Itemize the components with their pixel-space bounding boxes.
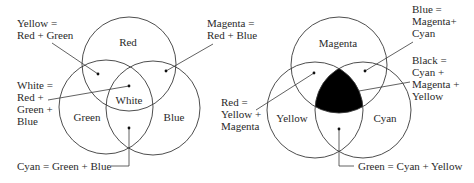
annotation-white-line1: White = — [17, 79, 53, 91]
annotation-black-line1: Black = — [412, 54, 447, 66]
leader-line-yellow — [52, 43, 98, 74]
subtractive-diagram: Magenta Yellow Cyan Blue = Magenta+ Cyan… — [221, 3, 462, 172]
annotation-cyan: Cyan = Green + Blue — [17, 160, 111, 172]
annotation-red-line1: Red = — [221, 96, 248, 108]
leader-line-red — [256, 73, 314, 110]
annotation-magenta-line1: Magenta = — [207, 17, 254, 29]
annotation-white-line2: Red + — [17, 91, 44, 103]
annotation-green: Green = Cyan + Yellow — [358, 160, 462, 172]
leader-line-black — [359, 82, 410, 91]
annotation-white-line4: Blue — [17, 115, 38, 127]
annotation-black-line3: Magenta + — [412, 78, 459, 90]
region-label-red: Red — [119, 36, 137, 48]
marker-dot-blue — [364, 70, 367, 73]
marker-dot-cyan — [128, 127, 131, 130]
marker-dot-white — [128, 85, 131, 88]
marker-dot-magenta — [165, 70, 168, 73]
annotation-magenta-line2: Red + Blue — [207, 29, 257, 41]
annotation-black-line4: Yellow — [412, 90, 443, 102]
annotation-black-line2: Cyan + — [412, 66, 444, 78]
region-label-blue: Blue — [164, 111, 185, 123]
annotation-red-line3: Magenta — [221, 120, 260, 132]
annotation-blue-line3: Cyan — [412, 27, 436, 39]
leader-line-blue — [365, 42, 413, 71]
marker-dot-red — [313, 72, 316, 75]
annotation-yellow-line2: Red + Green — [17, 29, 74, 41]
region-label-cyan: Cyan — [373, 112, 397, 124]
marker-dot-green — [338, 128, 341, 131]
annotation-yellow-line1: Yellow = — [17, 17, 57, 29]
annotation-red-line2: Yellow + — [221, 108, 261, 120]
annotation-blue-line1: Blue = — [412, 3, 442, 15]
region-label-green: Green — [74, 111, 101, 123]
marker-dot-yellow — [97, 73, 100, 76]
region-label-magenta: Magenta — [319, 37, 358, 49]
leader-line-green — [339, 129, 354, 166]
annotation-blue-line2: Magenta+ — [412, 15, 457, 27]
additive-diagram: Red White Green Blue Yellow = Red + Gree… — [17, 17, 257, 172]
color-mixing-diagram: Red White Green Blue Yellow = Red + Gree… — [0, 0, 474, 183]
region-label-white: White — [116, 94, 143, 106]
region-label-yellow: Yellow — [276, 112, 307, 124]
venn-diagrams: Red White Green Blue Yellow = Red + Gree… — [0, 0, 474, 183]
annotation-white-line3: Green + — [17, 103, 53, 115]
